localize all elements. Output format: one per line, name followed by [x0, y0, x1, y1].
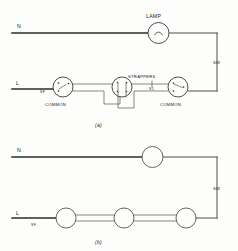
label-feed-left-b: SF	[31, 223, 37, 227]
diagram-a-group: N L LAMP STRAPPERS S1 SW SF COMMON COMMO…	[12, 13, 220, 128]
switch-right-terminal-common	[183, 86, 185, 88]
label-live-a: L	[16, 80, 19, 86]
label-common-right-a: COMMON	[160, 102, 181, 107]
switch-middle-terminal-2	[126, 82, 128, 84]
label-common-left-a: COMMON	[45, 102, 66, 107]
label-feed-left-a: SF	[40, 90, 46, 94]
label-neutral-b: N	[17, 147, 21, 153]
label-strapper-mark-a: S1	[149, 87, 154, 91]
caption-a: (a)	[95, 122, 102, 128]
switch-right-symbol-b	[176, 208, 196, 228]
switch-left-terminal-l2	[58, 90, 60, 92]
label-switch-wire-a: SW	[213, 60, 220, 65]
switch-left-terminal-common	[68, 83, 70, 85]
switch-right-terminal-l1	[173, 82, 175, 84]
switch-middle-symbol-a	[112, 77, 132, 97]
wiring-diagram-figure: N L LAMP STRAPPERS S1 SW SF COMMON COMMO…	[0, 0, 238, 251]
switch-left-symbol-b	[56, 208, 76, 228]
label-neutral-a: N	[17, 23, 21, 29]
switch-left-symbol-a	[53, 77, 73, 97]
switch-middle-symbol-b	[114, 208, 134, 228]
label-lamp-a: LAMP	[146, 13, 161, 19]
switch-middle-terminal-1	[117, 82, 119, 84]
lamp-symbol-b	[142, 147, 163, 168]
switch-right-symbol-a	[168, 77, 188, 97]
caption-b: (b)	[95, 239, 102, 245]
switch-right-terminal-l2	[173, 90, 175, 92]
diagram-b-group: N L SW SF (b)	[12, 147, 220, 246]
strapper-2-left-a	[73, 91, 120, 104]
lamp-symbol-a	[148, 23, 169, 44]
label-live-b: L	[16, 210, 19, 216]
switch-left-terminal-l1	[58, 82, 60, 84]
label-switch-wire-b: SW	[213, 186, 220, 191]
label-strappers-a: STRAPPERS	[128, 74, 156, 79]
